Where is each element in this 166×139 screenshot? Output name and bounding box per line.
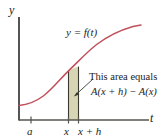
diagram-svg — [0, 0, 166, 139]
annotation-text-line-1: This area equals — [89, 72, 157, 83]
tick-label-a: a — [27, 126, 33, 137]
annotation-text-line-2: A(x + h) − A(x) — [91, 87, 157, 98]
tick-label-x-plus-h: x + h — [78, 126, 101, 137]
curve-label: y = f(t) — [66, 27, 97, 38]
t-axis-label: t — [150, 112, 153, 124]
tick-label-x: x — [64, 126, 69, 137]
y-axis-label: y — [9, 4, 14, 16]
figure-canvas: y t y = f(t) a x x + h This area equals … — [0, 0, 166, 139]
